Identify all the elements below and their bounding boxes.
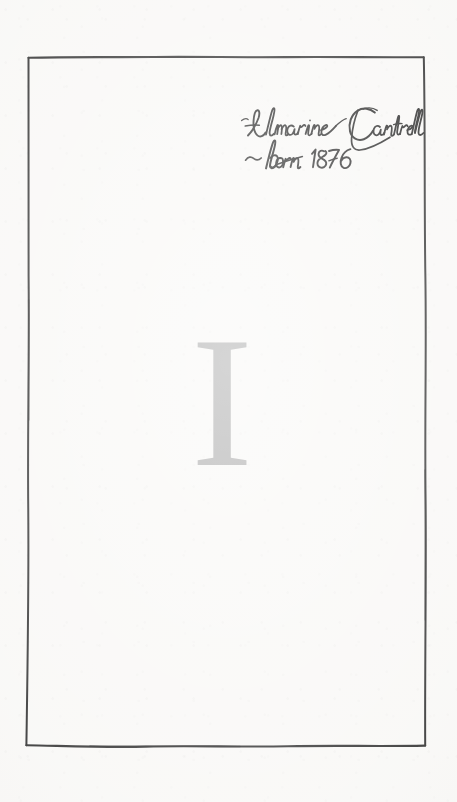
tilde-mark [246, 157, 262, 160]
border-bottom-line [26, 745, 425, 747]
chapter-opening-page: Almarine Cantrell [0, 0, 457, 802]
inscription-line-1 [242, 108, 424, 150]
inscription-line-2 [246, 141, 351, 169]
border-top-line [29, 57, 424, 58]
chapter-numeral-glyph: I [191, 330, 253, 475]
handwritten-inscription: Almarine Cantrell [232, 96, 432, 180]
chapter-numeral-container: I [0, 330, 457, 475]
